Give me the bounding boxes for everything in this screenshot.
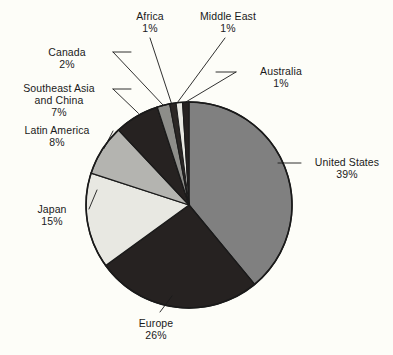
leader-line-africa — [150, 38, 171, 103]
pie-label-sea-china-name-line1: Southeast Asia — [8, 82, 110, 94]
leader-line-canada — [113, 52, 163, 105]
pie-label-united-states-percent: 39% — [304, 168, 390, 180]
pie-label-japan: Japan 15% — [18, 203, 86, 227]
leader-line-australia — [186, 72, 237, 102]
pie-label-europe-name: Europe — [120, 317, 192, 329]
pie-label-united-states: United States 39% — [304, 156, 390, 180]
pie-label-africa-name: Africa — [118, 10, 182, 22]
pie-label-europe-percent: 26% — [120, 329, 192, 341]
pie-label-middle-east-name: Middle East — [186, 10, 270, 22]
pie-label-japan-name: Japan — [18, 203, 86, 215]
pie-label-canada-name: Canada — [24, 46, 110, 58]
pie-label-sea-china-percent: 7% — [8, 106, 110, 118]
pie-label-europe: Europe 26% — [120, 317, 192, 341]
pie-label-canada: Canada 2% — [24, 46, 110, 70]
pie-label-australia: Australia 1% — [239, 65, 323, 89]
pie-label-middle-east: Middle East 1% — [186, 10, 270, 34]
pie-label-sea-china-name-line2: and China — [8, 94, 110, 106]
pie-label-southeast-asia-and-china: Southeast Asia and China 7% — [8, 82, 110, 119]
pie-label-australia-name: Australia — [239, 65, 323, 77]
chart-canvas: Africa 1% Middle East 1% Canada 2% South… — [0, 0, 393, 355]
pie-label-africa-percent: 1% — [118, 22, 182, 34]
pie-label-middle-east-percent: 1% — [186, 22, 270, 34]
pie-slices — [86, 102, 292, 308]
pie-label-latin-america-name: Latin America — [4, 124, 110, 136]
pie-label-africa: Africa 1% — [118, 10, 182, 34]
pie-label-latin-america: Latin America 8% — [4, 124, 110, 148]
pie-label-latin-america-percent: 8% — [4, 136, 110, 148]
pie-label-canada-percent: 2% — [24, 58, 110, 70]
leader-line-sea-china — [113, 89, 139, 113]
pie-label-united-states-name: United States — [304, 156, 390, 168]
pie-label-japan-percent: 15% — [18, 215, 86, 227]
pie-label-australia-percent: 1% — [239, 77, 323, 89]
